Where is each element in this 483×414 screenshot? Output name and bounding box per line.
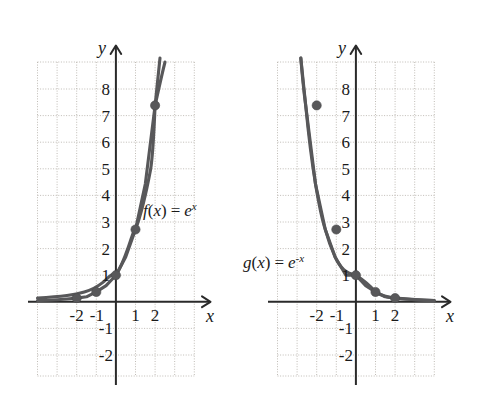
y-axis-label: y [96, 38, 106, 58]
x-tick-2: 2 [151, 306, 160, 325]
data-point-x-neg2 [312, 101, 321, 110]
fn-equals: = [274, 253, 284, 272]
y-tick-2: 2 [342, 240, 351, 259]
y-tick-6: 6 [342, 133, 351, 152]
y-tick-6: 6 [102, 133, 111, 152]
data-point-x-1 [371, 287, 380, 296]
svg-text:g(x)=e-x: g(x)=e-x [243, 252, 304, 272]
growth-function-label: f(x)=ex [143, 200, 197, 220]
x-tick-neg1: -1 [330, 306, 344, 325]
data-point-x-neg1 [92, 287, 101, 296]
y-tick-4: 4 [342, 186, 351, 205]
exponential-growth-curve-overlay [38, 58, 161, 301]
data-point-x-2 [391, 294, 400, 303]
y-tick-5: 5 [102, 160, 111, 179]
svg-text:f(x)=ex: f(x)=ex [143, 200, 197, 220]
y-tick-4: 4 [102, 186, 111, 205]
data-point-x-2 [151, 101, 160, 110]
data-point-x-0 [111, 271, 120, 280]
y-axis-label: y [336, 38, 346, 58]
data-point-x-neg2 [72, 294, 81, 303]
y-tick-neg2: -2 [99, 346, 113, 365]
x-tick-1: 1 [371, 306, 380, 325]
x-axis-label: x [205, 306, 214, 326]
y-tick-1: 1 [342, 266, 351, 285]
x-tick-1: 1 [131, 306, 140, 325]
y-tick-3: 3 [102, 213, 111, 232]
fn-exponent: x [191, 200, 197, 212]
axes [268, 46, 451, 386]
axes [28, 46, 211, 386]
x-tick-neg2: -2 [70, 306, 84, 325]
x-tick-labels: -2 -1 1 2 [310, 306, 400, 325]
exponential-functions-figure: 8 7 6 5 4 3 2 1 -1 -2 -2 -1 1 2 y x [0, 0, 483, 414]
data-point-x-neg1 [332, 225, 341, 234]
x-axis-label: x [445, 306, 454, 326]
y-tick-3: 3 [342, 213, 351, 232]
y-tick-7: 7 [342, 107, 351, 126]
x-tick-2: 2 [391, 306, 400, 325]
decay-curve-group [301, 58, 435, 303]
y-tick-2: 2 [102, 240, 111, 259]
data-point-x-0 [351, 271, 360, 280]
y-tick-8: 8 [102, 80, 111, 99]
x-tick-neg2: -2 [310, 306, 324, 325]
x-tick-labels: -2 -1 1 2 [70, 306, 160, 325]
fn-equals: = [171, 201, 181, 220]
y-tick-1: 1 [102, 266, 111, 285]
decay-function-label: g(x)=e-x [243, 252, 304, 272]
y-tick-5: 5 [342, 160, 351, 179]
y-tick-neg2: -2 [339, 346, 353, 365]
growth-plot-svg: 8 7 6 5 4 3 2 1 -1 -2 -2 -1 1 2 y x [0, 0, 241, 414]
y-tick-8: 8 [342, 80, 351, 99]
exponential-decay-panel: 8 7 6 5 4 3 2 1 -1 -2 -2 -1 1 2 y x [241, 0, 482, 414]
fn-exponent: -x [296, 252, 305, 264]
data-point-x-1 [131, 225, 140, 234]
x-tick-neg1: -1 [90, 306, 104, 325]
exponential-growth-panel: 8 7 6 5 4 3 2 1 -1 -2 -2 -1 1 2 y x [0, 0, 241, 414]
fn-name: g [243, 253, 252, 272]
y-tick-7: 7 [102, 107, 111, 126]
decay-plot-svg: 8 7 6 5 4 3 2 1 -1 -2 -2 -1 1 2 y x [241, 0, 482, 414]
